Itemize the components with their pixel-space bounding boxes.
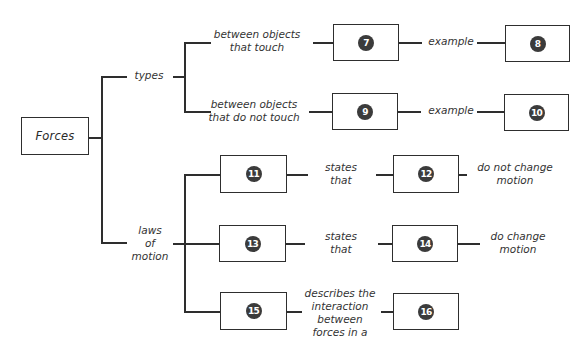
connector-line: [286, 311, 302, 313]
connector-line: [184, 174, 186, 312]
forces-label: Forces: [36, 129, 75, 143]
connector-line: [101, 76, 127, 78]
connector-line: [381, 311, 393, 313]
connector-line: [101, 76, 103, 243]
number-badge: 9: [357, 104, 373, 120]
connector-line: [184, 42, 186, 112]
connector-line: [184, 311, 220, 313]
answer-box-8[interactable]: 8: [505, 25, 570, 62]
connector-line: [457, 243, 480, 245]
answer-box-9[interactable]: 9: [332, 93, 398, 130]
number-badge: 10: [529, 105, 545, 121]
link-label-states-that: states that: [325, 161, 357, 187]
link-label-describes-interaction: describes the interaction between forces…: [305, 287, 376, 339]
tail-label-do-change-motion: do change motion: [490, 230, 545, 256]
answer-box-11[interactable]: 11: [220, 155, 287, 193]
connector-line: [173, 243, 220, 245]
number-badge: 12: [418, 166, 434, 182]
number-badge: 8: [530, 36, 546, 52]
number-badge: 7: [358, 35, 374, 51]
number-badge: 11: [246, 166, 262, 182]
answer-box-14[interactable]: 14: [392, 225, 458, 262]
connector-line: [397, 111, 421, 113]
answer-box-12[interactable]: 12: [393, 155, 459, 193]
example-label: example: [428, 104, 473, 117]
connector-line: [376, 174, 393, 176]
answer-box-10[interactable]: 10: [504, 94, 569, 131]
laws-of-motion-label: laws of motion: [132, 224, 169, 263]
connector-line: [286, 174, 308, 176]
connector-line: [378, 243, 392, 245]
connector-line: [184, 111, 211, 113]
link-label-states-that: states that: [325, 230, 357, 256]
forces-root-box: Forces: [21, 117, 89, 155]
types-label: types: [135, 69, 164, 82]
answer-box-15[interactable]: 15: [220, 292, 287, 330]
connector-line: [184, 174, 220, 176]
connector-line: [101, 242, 127, 244]
example-label: example: [428, 35, 473, 48]
link-label-touch: between objects that touch: [214, 28, 301, 54]
connector-line: [309, 111, 332, 113]
connector-line: [458, 174, 467, 176]
number-badge: 13: [245, 236, 261, 252]
connector-line: [477, 42, 505, 44]
connector-line: [477, 111, 504, 113]
number-badge: 16: [418, 304, 434, 320]
connector-line: [285, 243, 305, 245]
answer-box-16[interactable]: 16: [393, 293, 459, 330]
connector-line: [184, 42, 211, 44]
answer-box-7[interactable]: 7: [333, 24, 399, 61]
number-badge: 14: [417, 236, 433, 252]
connector-line: [398, 42, 422, 44]
number-badge: 15: [246, 303, 262, 319]
tail-label-do-not-change-motion: do not change motion: [477, 161, 553, 187]
connector-line: [88, 137, 102, 139]
connector-line: [313, 42, 333, 44]
link-label-no-touch: between objects that do not touch: [208, 98, 299, 124]
answer-box-13[interactable]: 13: [219, 225, 286, 262]
